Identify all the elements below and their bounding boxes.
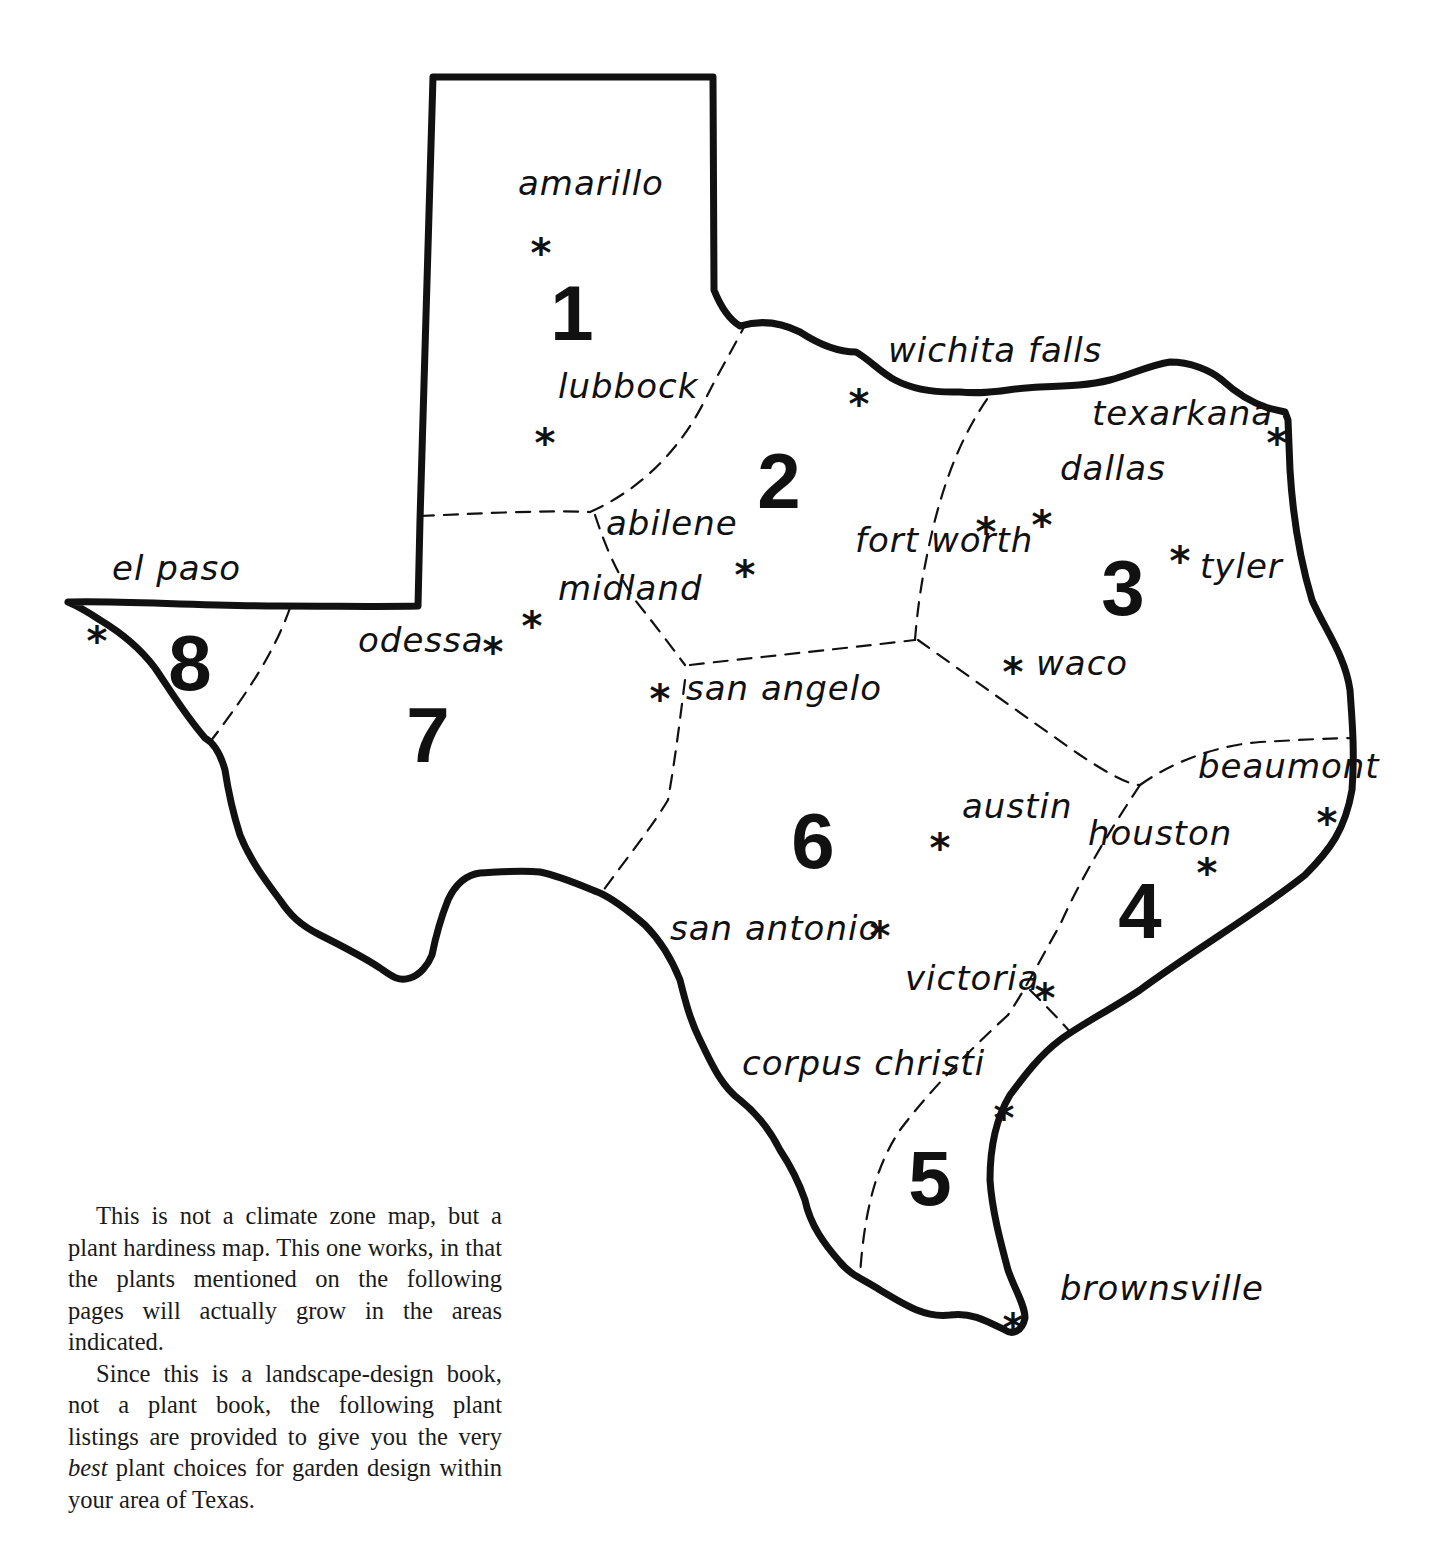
city-odessa: *odessa: [358, 620, 504, 675]
city-marker-icon: *: [87, 618, 108, 664]
city-lubbock: *lubbock: [535, 366, 699, 466]
city-marker-icon: *: [522, 603, 543, 649]
city-label: san angelo: [686, 668, 882, 708]
city-marker-icon: *: [1170, 538, 1191, 584]
zone-number-7: 7: [406, 691, 449, 779]
city-label: el paso: [112, 548, 241, 588]
city-label: san antonio: [670, 908, 880, 948]
city-marker-icon: *: [1003, 1305, 1024, 1351]
city-dallas: *dallas: [1032, 448, 1166, 548]
zone-boundary-2-6: [690, 640, 915, 665]
city-marker-icon: *: [1197, 850, 1218, 896]
city-brownsville: *brownsville: [1003, 1268, 1264, 1351]
zone-number-4: 4: [1118, 867, 1161, 955]
city-label: odessa: [358, 620, 484, 660]
city-label: corpus christi: [742, 1043, 985, 1083]
city-marker-icon: *: [849, 381, 870, 427]
map-caption: This is not a climate zone map, but a pl…: [68, 1200, 502, 1515]
city-marker-icon: *: [1032, 502, 1053, 548]
city-marker-icon: *: [1317, 800, 1338, 846]
city-waco: *waco: [1003, 643, 1129, 695]
city-midland: *midland: [522, 568, 703, 649]
city-tyler: *tyler: [1170, 538, 1284, 586]
city-label: fort worth: [855, 520, 1033, 560]
city-label: tyler: [1200, 546, 1284, 586]
city-marker-icon: *: [930, 825, 951, 871]
city-label: victoria: [905, 958, 1040, 998]
city-marker-icon: *: [994, 1095, 1015, 1141]
zone-number-1: 1: [550, 269, 593, 357]
city-marker-icon: *: [531, 230, 552, 276]
zone-boundary-1-7: [420, 511, 590, 516]
caption-paragraph-2: Since this is a landscape-design book, n…: [68, 1358, 502, 1516]
city-label: brownsville: [1060, 1268, 1264, 1308]
city-austin: *austin: [930, 786, 1073, 871]
city-label: houston: [1088, 813, 1232, 853]
city-victoria: *victoria: [905, 958, 1056, 1021]
city-label: dallas: [1060, 448, 1166, 488]
zone-number-2: 2: [757, 437, 800, 525]
zone-boundary-1-2: [590, 325, 745, 512]
city-label: waco: [1036, 643, 1128, 683]
caption-paragraph-1: This is not a climate zone map, but a pl…: [68, 1200, 502, 1358]
city-label: wichita falls: [888, 330, 1102, 370]
city-san-angelo: *san angelo: [650, 668, 883, 722]
city-marker-icon: *: [735, 552, 756, 598]
caption-emphasis: best: [68, 1454, 107, 1481]
city-fort-worth: *fort worth: [855, 509, 1033, 560]
zone-boundary-6-7: [600, 680, 685, 895]
city-label: abilene: [606, 503, 738, 543]
city-marker-icon: *: [535, 420, 556, 466]
city-markers: *amarillo*lubbock*wichita falls*abilene*…: [87, 163, 1381, 1351]
city-san-antonio: *san antonio: [670, 908, 891, 959]
city-marker-icon: *: [483, 629, 504, 675]
zone-boundary-7-8: [210, 608, 290, 742]
city-corpus-christi: *corpus christi: [742, 1043, 1015, 1141]
caption-text: plant choices for garden design within y…: [68, 1454, 502, 1513]
zone-number-3: 3: [1101, 544, 1144, 632]
city-label: amarillo: [518, 163, 664, 203]
caption-text: Since this is a landscape-design book, n…: [68, 1360, 502, 1450]
city-marker-icon: *: [650, 676, 671, 722]
city-marker-icon: *: [1003, 649, 1024, 695]
zone-number-6: 6: [791, 797, 834, 885]
city-label: austin: [962, 786, 1072, 826]
city-label: beaumont: [1198, 746, 1380, 786]
zone-numbers: 12345678: [168, 269, 1161, 1222]
city-amarillo: *amarillo: [518, 163, 664, 276]
city-label: lubbock: [558, 366, 699, 406]
zone-number-5: 5: [908, 1134, 951, 1222]
city-label: midland: [558, 568, 703, 608]
city-label: texarkana: [1092, 393, 1273, 433]
zone-number-8: 8: [168, 619, 211, 707]
